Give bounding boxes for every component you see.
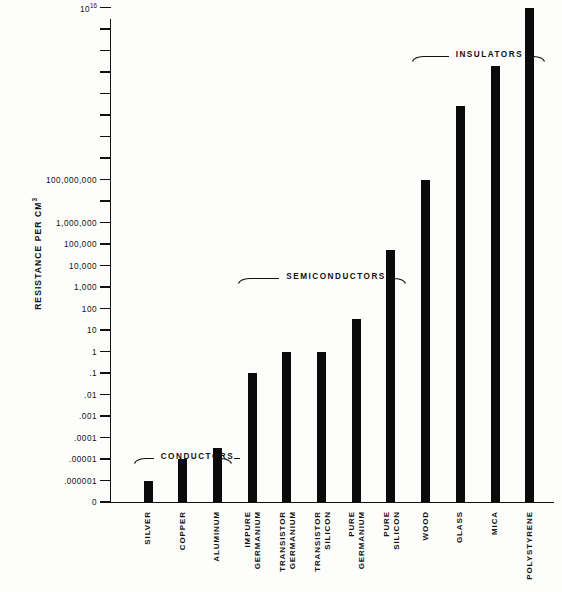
bracket-line-left [423,56,449,57]
y-axis-tick [100,7,111,8]
y-axis-tick-label: .1 [0,369,97,378]
x-axis-label-line: POLYSTYRENE [525,511,535,580]
y-axis-tick [100,114,111,115]
x-axis-label-line: SILICON [391,511,401,550]
x-axis-label-line: IMPURE [243,511,253,569]
y-axis-tick-label: 10 [0,326,97,335]
y-axis-tick-label: 100,000 [0,240,97,249]
y-axis-tick [100,28,111,29]
y-axis-tick-label: .0001 [0,433,97,442]
y-axis-title: RESISTANCE PER CM3 [31,159,43,349]
x-axis-label-text: ALUMINUM [213,511,223,562]
y-axis-tick [100,179,111,180]
group-bracket: INSULATORS [412,50,544,64]
y-axis-tick [100,372,111,373]
x-axis-label-text: MICA [490,511,500,535]
x-axis-label-line: WOOD [421,511,431,540]
bar [491,66,500,502]
x-axis-label-line: SILICON [322,511,332,572]
x-axis-label-line: MICA [490,511,500,535]
x-axis-label-line: ALUMINUM [213,511,223,562]
y-axis-tick [100,265,111,266]
bar [248,373,257,502]
x-axis-label-line: PURE [347,511,357,569]
y-axis-tick-label: .00001 [0,455,97,464]
x-axis-label-text: IMPUREGERMANIUM [243,511,262,569]
x-axis-label-line: PURE [381,511,391,550]
y-axis-tick [100,157,111,158]
x-axis-label-text: WOOD [421,511,431,540]
y-axis-tick [100,394,111,395]
bracket-label: INSULATORS [456,50,523,59]
y-axis-tick [100,71,111,72]
resistance-bar-chart: RESISTANCE PER CM3 0.000001.00001.0001.0… [0,0,562,592]
bracket-left-curl-icon [134,452,145,464]
y-axis-tick-label: .001 [0,412,97,421]
y-axis-tick [100,351,111,352]
y-axis-tick [100,308,111,309]
y-axis-tick [100,243,111,244]
x-axis-label-line: GLASS [456,511,466,543]
x-axis-label-line: SILVER [143,511,153,545]
bracket-right-curl-icon [533,50,544,62]
x-axis-label-line: GERMANIUM [287,511,297,572]
x-axis-label-text: TRANSISTORSILICON [312,511,331,572]
bar [525,8,534,503]
x-axis-label-text: COPPER [178,511,188,550]
y-axis-tick [100,200,111,201]
y-axis-tick-label: 0 [0,498,97,507]
group-bracket: SEMICONDUCTORS [238,272,405,286]
y-axis-tick-label: 1,000 [0,283,97,292]
y-axis-tick [100,50,111,51]
bar [282,352,291,503]
y-axis-line [110,19,111,503]
x-axis-line [110,502,554,503]
y-axis-tick [100,329,111,330]
bracket-right-curl-icon [220,452,231,464]
y-axis-tick-label: 100,000,000 [0,175,97,184]
x-axis-label-text: SILVER [143,511,153,545]
y-axis-title-exponent: 3 [31,198,38,202]
tick-label-exponent: 16 [90,2,97,9]
y-axis-tick-label: 1,000,000 [0,218,97,227]
y-axis-tick [100,501,111,502]
bar [352,319,361,502]
y-axis-tick [100,415,111,416]
y-axis-tick-label: .01 [0,390,97,399]
x-axis-label-line: TRANSISTOR [277,511,287,572]
x-axis-label-text: PUREGERMANIUM [347,511,366,569]
y-axis-tick [100,222,111,223]
x-axis-label-line: GERMANIUM [356,511,366,569]
x-axis-label-text: PURESILICON [381,511,400,550]
x-axis-label-line: TRANSISTOR [312,511,322,572]
x-axis-label-text: GLASS [456,511,466,543]
bar [456,106,465,502]
bracket-line-left [145,458,154,459]
x-axis-label-line: GERMANIUM [252,511,262,569]
y-axis-tick [100,480,111,481]
tick-label-base: 10 [80,4,90,13]
y-axis-tick-label: .000001 [0,476,97,485]
bracket-label: SEMICONDUCTORS [286,272,386,281]
y-axis-tick [100,458,111,459]
bar [421,180,430,503]
bracket-right-curl-icon [394,272,405,284]
group-bracket: CONDUCTORS [134,452,231,466]
y-axis-tick-label: 1 [0,347,97,356]
y-axis-tick [100,286,111,287]
y-axis-tick [100,437,111,438]
y-axis-tick-label: 1016 [0,2,97,14]
bracket-left-curl-icon [412,50,423,62]
x-axis-label-text: POLYSTYRENE [525,511,535,580]
y-axis-tick-label: 100 [0,304,97,313]
y-axis-tick [100,136,111,137]
bracket-line-right [234,458,240,459]
bracket-left-curl-icon [238,272,249,284]
bar [386,250,395,502]
bar [317,352,326,503]
bar [144,481,153,503]
bracket-line-left [249,278,279,279]
y-axis-tick [100,93,111,94]
x-axis-label-line: COPPER [178,511,188,550]
x-axis-label-text: TRANSISTORGERMANIUM [277,511,296,572]
